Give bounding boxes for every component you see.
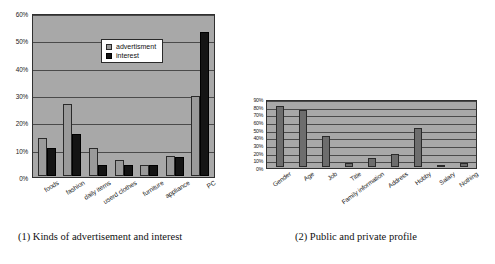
legend-item-interest: interest bbox=[106, 52, 156, 59]
bar-advertisment bbox=[89, 148, 98, 176]
y-tick-label: 60% bbox=[16, 11, 28, 18]
bar-group bbox=[291, 102, 314, 167]
bar-public bbox=[322, 136, 330, 167]
legend-label-interest: interest bbox=[116, 52, 139, 59]
y-tick-label: 40% bbox=[16, 65, 28, 72]
figure-1-caption: (1) Kinds of advertisement and interest bbox=[18, 231, 182, 242]
y-tick-label: 90% bbox=[254, 97, 263, 103]
x-tick-label: Gender bbox=[271, 170, 292, 188]
bar-advertisment bbox=[166, 156, 175, 176]
bar-interest bbox=[200, 32, 209, 176]
figure-advertisement-interest: 0%10%20%30%40%50%60% advertisment intere… bbox=[0, 0, 247, 264]
x-tick-label: Title bbox=[349, 170, 362, 182]
x-tick-label: Nothing bbox=[458, 170, 479, 188]
figure-public-private-profile: 0%10%20%30%40%50%60%70%80%90% GenderAgeJ… bbox=[240, 0, 495, 264]
bar-interest bbox=[149, 165, 158, 176]
bar-group bbox=[337, 102, 360, 167]
bar-group bbox=[34, 16, 60, 176]
bar-public bbox=[276, 106, 284, 167]
bar-public bbox=[437, 165, 445, 167]
bar-public bbox=[414, 128, 422, 167]
chart2-y-axis: 0%10%20%30%40%50%60%70%80%90% bbox=[240, 100, 265, 169]
y-tick-label: 50% bbox=[16, 38, 28, 45]
bar-interest bbox=[124, 165, 133, 176]
bar-public bbox=[460, 163, 468, 167]
y-tick-label: 10% bbox=[16, 147, 28, 154]
bar-public bbox=[345, 163, 353, 167]
bar-group bbox=[268, 102, 291, 167]
x-tick-label: appliance bbox=[164, 179, 191, 199]
y-tick-label: 20% bbox=[254, 151, 263, 157]
bar-group bbox=[406, 102, 429, 167]
chart1-legend: advertisment interest bbox=[101, 39, 163, 63]
x-tick-label: PC bbox=[205, 179, 216, 190]
bar-public bbox=[368, 158, 376, 167]
bar-public bbox=[299, 110, 307, 167]
bar-interest bbox=[98, 165, 107, 176]
y-tick-label: 50% bbox=[254, 128, 263, 134]
bar-group bbox=[383, 102, 406, 167]
figure-2-caption: (2) Public and private profile bbox=[295, 231, 417, 242]
bar-interest bbox=[175, 157, 184, 176]
x-tick-label: Hobby bbox=[414, 170, 433, 186]
bar-advertisment bbox=[38, 138, 47, 176]
y-tick-label: 80% bbox=[254, 105, 263, 111]
legend-swatch-interest-icon bbox=[106, 53, 112, 59]
y-tick-label: 10% bbox=[254, 158, 263, 164]
bar-group bbox=[314, 102, 337, 167]
legend-label-advertisment: advertisment bbox=[116, 43, 156, 50]
y-tick-label: 30% bbox=[254, 143, 263, 149]
bar-group bbox=[360, 102, 383, 167]
legend-swatch-advertisment-icon bbox=[106, 44, 112, 50]
bar-advertisment bbox=[63, 104, 72, 176]
y-tick-label: 0% bbox=[19, 175, 28, 182]
chart1-y-axis: 0%10%20%30%40%50%60% bbox=[0, 14, 30, 178]
y-tick-label: 0% bbox=[256, 166, 263, 172]
x-tick-label: furniture bbox=[141, 179, 164, 197]
bar-group bbox=[60, 16, 86, 176]
y-tick-label: 40% bbox=[254, 135, 263, 141]
bar-group bbox=[452, 102, 475, 167]
y-tick-label: 70% bbox=[254, 112, 263, 118]
chart2-x-axis: GenderAgeJobTitleFamily informationAddre… bbox=[266, 170, 477, 220]
x-tick-label: foods bbox=[43, 179, 60, 193]
y-tick-label: 60% bbox=[254, 120, 263, 126]
bar-public bbox=[391, 154, 399, 167]
chart2-bars bbox=[268, 102, 475, 167]
bar-group bbox=[162, 16, 188, 176]
x-tick-label: Salary bbox=[438, 170, 456, 186]
bar-interest bbox=[47, 148, 56, 176]
x-tick-label: Job bbox=[326, 170, 338, 182]
chart2-plot bbox=[266, 100, 477, 169]
bar-interest bbox=[72, 134, 81, 176]
bar-advertisment bbox=[140, 165, 149, 176]
bar-advertisment bbox=[191, 96, 200, 176]
chart1-plot: advertisment interest bbox=[32, 14, 215, 178]
y-tick-label: 30% bbox=[16, 93, 28, 100]
y-tick-label: 20% bbox=[16, 120, 28, 127]
x-tick-label: Age bbox=[302, 170, 315, 182]
x-tick-label: Family information bbox=[341, 170, 386, 205]
bar-advertisment bbox=[115, 160, 124, 176]
bar-group bbox=[187, 16, 213, 176]
bar-group bbox=[429, 102, 452, 167]
x-tick-label: Address bbox=[386, 170, 409, 189]
chart2-plot-area bbox=[266, 100, 477, 169]
chart1-x-axis: foodsfashiondaily itemsuserd clothesfurn… bbox=[32, 179, 215, 223]
legend-item-advertisment: advertisment bbox=[106, 43, 156, 50]
